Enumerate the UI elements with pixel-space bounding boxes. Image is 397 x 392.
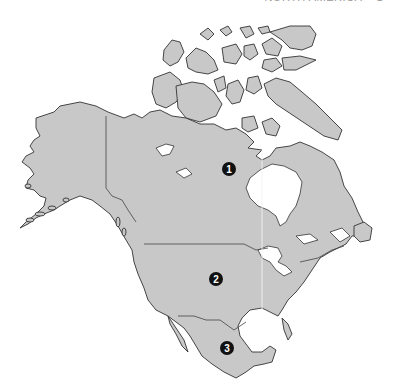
mainland <box>20 102 372 378</box>
marker-2-label: 2 <box>213 274 219 285</box>
marker-1[interactable]: 1 <box>222 162 236 176</box>
marker-3[interactable]: 3 <box>220 341 234 355</box>
marker-1-label: 1 <box>226 164 232 175</box>
marker-3-label: 3 <box>224 343 230 354</box>
marker-2[interactable]: 2 <box>209 272 223 286</box>
north-america-map: 1 2 3 <box>0 0 397 392</box>
